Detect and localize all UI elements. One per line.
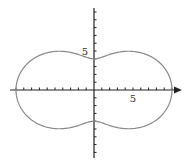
x-axis-arrow-icon	[174, 87, 182, 94]
y-tick-label-5: 5	[82, 46, 88, 57]
axes	[10, 8, 182, 158]
polar-plot: 5 5	[0, 0, 190, 168]
x-tick-label-5: 5	[130, 93, 136, 104]
